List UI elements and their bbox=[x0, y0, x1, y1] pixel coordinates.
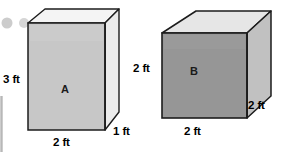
box-b-width-label: 2 ft bbox=[184, 126, 201, 138]
geometry-figure: 3 ft A 2 ft 1 ft 2 ft B 2 ft 2 ft bbox=[0, 0, 286, 152]
box-a-height-label: 3 ft bbox=[3, 74, 20, 86]
figure-canvas bbox=[0, 0, 286, 152]
box-a-name-label: A bbox=[61, 84, 69, 95]
box-b-depth-label: 2 ft bbox=[248, 100, 265, 112]
box-b-height-label: 2 ft bbox=[133, 63, 150, 75]
box-a-depth-label: 1 ft bbox=[113, 126, 130, 138]
box-a-side-face bbox=[105, 9, 119, 130]
box-b-front-highlight bbox=[164, 35, 245, 49]
box-a-front-highlight bbox=[30, 25, 103, 41]
box-a bbox=[28, 9, 119, 130]
box-a-width-label: 2 ft bbox=[53, 137, 70, 149]
box-b-name-label: B bbox=[190, 66, 198, 77]
box-a-top-face bbox=[28, 9, 119, 23]
dot-left-icon bbox=[2, 18, 13, 29]
